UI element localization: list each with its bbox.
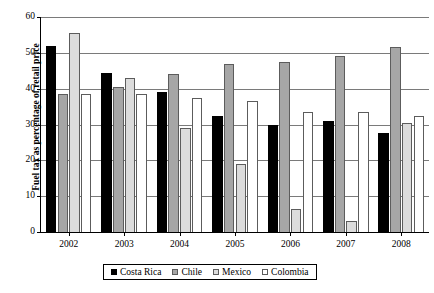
x-tick-label: 2004 (152, 239, 207, 249)
legend-item: Chile (172, 267, 202, 277)
bar (323, 121, 334, 232)
bar (346, 221, 357, 232)
y-tick-label: 30 (26, 120, 36, 130)
bar (291, 209, 302, 232)
legend-item: Colombia (262, 267, 308, 277)
bar (157, 92, 168, 232)
fuel-tax-bar-chart: Fuel tax as percentage of retail price 0… (0, 0, 434, 293)
legend-label: Chile (181, 267, 202, 277)
legend-item: Mexico (213, 267, 251, 277)
bar-group: 2002 (41, 17, 96, 232)
bar (247, 101, 258, 232)
bar-group: 2003 (96, 17, 151, 232)
bar (168, 74, 179, 232)
bar-group: 2006 (263, 17, 318, 232)
bar (125, 78, 136, 232)
bar (69, 33, 80, 232)
bar-group: 2007 (318, 17, 373, 232)
bar (390, 47, 401, 232)
bar (236, 164, 247, 232)
y-tick-label: 50 (26, 48, 36, 58)
bar (81, 94, 92, 232)
y-tick-mark (37, 232, 41, 233)
bar-group: 2008 (374, 17, 429, 232)
bar (113, 87, 124, 232)
x-tick-mark (124, 232, 125, 236)
x-tick-label: 2005 (207, 239, 262, 249)
bar (268, 125, 279, 233)
legend-label: Colombia (271, 267, 308, 277)
bar (358, 112, 369, 232)
bar (224, 64, 235, 232)
y-tick-label: 10 (26, 191, 36, 201)
bar-groups: 2002200320042005200620072008 (41, 17, 429, 232)
x-tick-label: 2003 (96, 239, 151, 249)
bar (58, 94, 69, 232)
x-tick-label: 2006 (263, 239, 318, 249)
legend-swatch-icon (111, 269, 117, 275)
bar (303, 112, 314, 232)
bar-group: 2004 (152, 17, 207, 232)
x-tick-mark (180, 232, 181, 236)
legend-label: Costa Rica (120, 267, 161, 277)
x-tick-mark (290, 232, 291, 236)
chart-legend: Costa RicaChileMexicoColombia (103, 264, 317, 280)
bar (101, 73, 112, 232)
legend-item: Costa Rica (111, 267, 161, 277)
bar (180, 128, 191, 232)
x-tick-mark (69, 232, 70, 236)
legend-label: Mexico (222, 267, 251, 277)
bar (414, 116, 425, 232)
x-tick-label: 2007 (318, 239, 373, 249)
x-tick-label: 2008 (374, 239, 429, 249)
y-tick-label: 40 (26, 84, 36, 94)
bar (402, 123, 413, 232)
legend-swatch-icon (172, 269, 178, 275)
bar (192, 98, 203, 232)
x-tick-mark (235, 232, 236, 236)
bar (378, 133, 389, 232)
legend-swatch-icon (262, 269, 268, 275)
x-tick-mark (346, 232, 347, 236)
legend-swatch-icon (213, 269, 219, 275)
plot-area: 0102030405060 20022003200420052006200720… (40, 17, 429, 233)
bar (136, 94, 147, 232)
y-tick-label: 0 (30, 227, 35, 237)
bar (46, 46, 57, 232)
x-tick-mark (401, 232, 402, 236)
bar (279, 62, 290, 232)
y-tick-label: 60 (26, 12, 36, 22)
bar (212, 116, 223, 232)
y-tick-label: 20 (26, 156, 36, 166)
bar-group: 2005 (207, 17, 262, 232)
x-tick-label: 2002 (41, 239, 96, 249)
bar (335, 56, 346, 232)
